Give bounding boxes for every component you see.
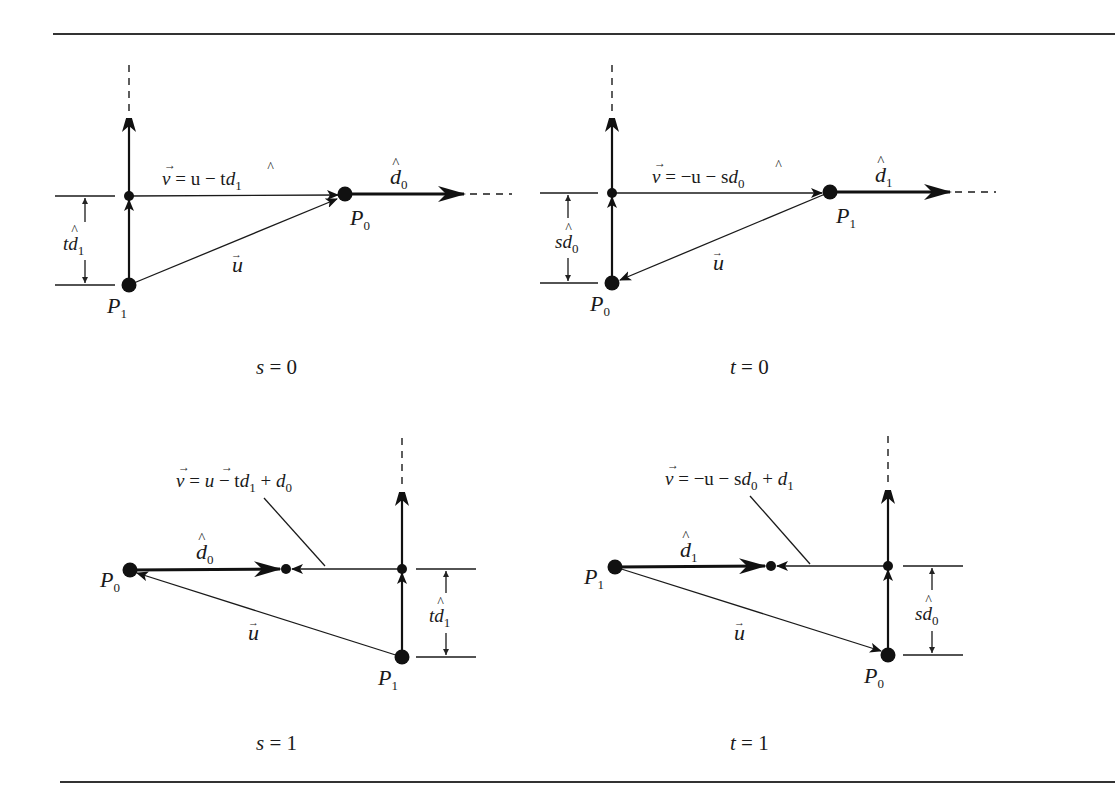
u-arrow-accent: → [231,248,242,260]
v-arrow-accent: → [178,460,190,474]
point-a-label: P1 [106,293,127,321]
u-arrow-accent: → [734,616,745,628]
caption-t1: t = 1 [730,731,769,755]
caption-s0: s = 0 [256,355,297,379]
point-b-dot [608,560,623,575]
point-a-label: P1 [377,665,398,693]
caption-s1: s = 1 [256,731,297,755]
d0-direction-arrow [130,569,280,570]
point-a-dot [122,278,137,293]
u-vector [620,192,830,280]
equation-leader-line [750,496,810,564]
u-arrow-accent: → [712,246,723,258]
figure-canvas: v = u − td1 → ^ d0 ^ td1 ^ u → P1 P0 s =… [0,0,1115,787]
u-arrow-accent: → [248,616,259,628]
intersection-dot [397,564,407,574]
intersection-dot [883,561,893,571]
point-b-dot [823,185,838,200]
v-arrow-accent: → [164,158,176,172]
point-a-label: P0 [863,663,884,691]
equation-label: v = u − td1 + d0 [176,470,292,495]
point-b-label: P1 [583,564,604,592]
result-dot [281,564,291,574]
point-b-label: P0 [349,205,370,233]
v-vector [129,195,338,196]
d-hat-accent: ^ [267,160,274,175]
point-a-label: P0 [589,291,610,319]
v-arrow-accent: → [654,156,666,170]
intersection-dot [124,191,134,201]
panel-s1: v = u − td1 + d0 → → d0 ^ td1 ^ u → P1 P… [99,438,476,755]
point-a-dot [395,650,410,665]
u-arrow-accent-eq: → [221,460,233,474]
u-vector [137,573,402,657]
point-b-label: P0 [99,567,120,595]
u-vector [615,567,881,651]
d-hat-accent: ^ [775,158,782,173]
caption-t0: t = 0 [730,355,769,379]
point-a-dot [881,648,896,663]
intersection-dot [607,188,617,198]
point-b-label: P1 [835,203,856,231]
equation-label: v = −u − sd0 + d1 [665,468,794,493]
panel-t0: v = −u − sd0 → ^ d1 ^ sd0 ^ u → P0 P1 t … [540,65,996,379]
v-arrow-accent: → [667,458,679,472]
panel-t1: v = −u − sd0 + d1 → d1 ^ sd0 ^ u → P0 P1… [583,436,963,755]
point-a-dot [605,276,620,291]
equation-leader-line [264,498,325,566]
d1-direction-arrow-horizontal [615,566,765,567]
result-dot [766,561,776,571]
point-b-dot [123,563,138,578]
point-b-dot [338,187,353,202]
panel-s0: v = u − td1 → ^ d0 ^ td1 ^ u → P1 P0 s =… [55,65,512,379]
